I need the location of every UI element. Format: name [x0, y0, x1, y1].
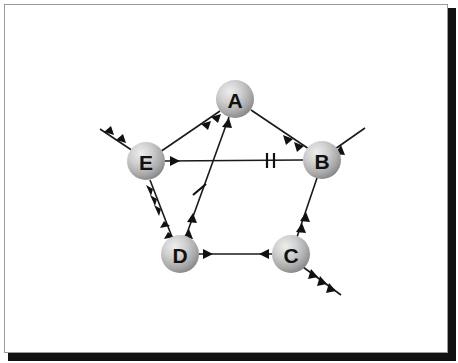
edge-D-C-arrowhead-2	[259, 249, 269, 259]
node-B-sphere[interactable]	[303, 141, 341, 179]
node-A[interactable]: A	[216, 80, 254, 118]
node-E-sphere[interactable]	[127, 142, 165, 180]
edge-A-E-line	[160, 111, 220, 152]
edge-D-A	[183, 117, 232, 239]
external-arrow-E	[100, 126, 133, 151]
edge-E-B-arrowhead-1	[170, 156, 180, 166]
node-D-sphere[interactable]	[161, 235, 199, 273]
edge-E-D	[146, 180, 174, 239]
external-arrow-B	[335, 128, 365, 155]
node-A-sphere[interactable]	[216, 80, 254, 118]
edge-D-A-arrowhead-3	[187, 213, 197, 223]
external-arrow-E-arrowhead-2	[116, 134, 126, 143]
node-B[interactable]: B	[303, 141, 341, 179]
edge-B-C	[296, 178, 317, 237]
edge-A-B-arrowhead-1	[294, 142, 304, 152]
edge-A-B	[251, 110, 309, 152]
node-E[interactable]: E	[127, 142, 165, 180]
edge-E-B-line	[165, 160, 303, 161]
diagram-canvas: A B C D E	[4, 4, 448, 353]
node-C[interactable]: C	[272, 235, 310, 273]
edge-D-C	[199, 249, 272, 259]
edge-D-C-arrowhead-1	[203, 249, 213, 259]
external-arrow-C	[303, 267, 341, 295]
external-arrow-E-arrowhead-1	[104, 126, 114, 135]
node-group: A B C D E	[127, 80, 341, 273]
edge-E-D-line	[150, 180, 172, 237]
node-D[interactable]: D	[161, 235, 199, 273]
external-arrow-B-line	[335, 128, 365, 149]
edge-B-C-arrowhead-2	[300, 212, 310, 222]
node-C-sphere[interactable]	[272, 235, 310, 273]
edge-D-A-tick-1	[193, 184, 206, 195]
edge-A-B-line	[251, 110, 309, 149]
edge-A-E	[160, 111, 221, 152]
edge-E-B	[165, 153, 303, 168]
edge-D-A-arrowhead-1	[222, 118, 232, 128]
edge-B-C-arrowhead-1	[296, 223, 306, 233]
diagram-figure: A B C D E	[0, 0, 458, 363]
pentagon-graph: A B C D E	[5, 5, 449, 354]
